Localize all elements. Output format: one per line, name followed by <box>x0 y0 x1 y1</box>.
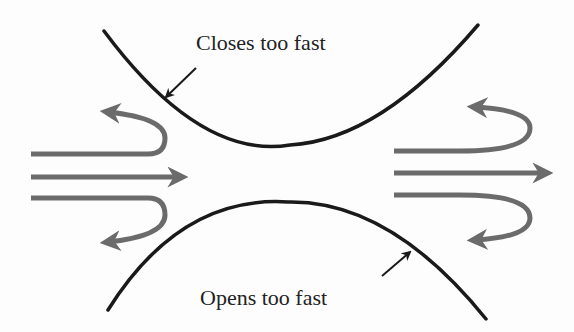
label-closes-too-fast: Closes too fast <box>196 30 326 56</box>
u-turn-arrow-icon-right-bottom <box>394 195 530 240</box>
diagram-canvas: Closes too fast Opens too fast <box>0 0 574 332</box>
u-turn-arrow-icon-right-top <box>394 107 530 151</box>
u-turn-arrow-icon-left-bottom <box>31 198 165 242</box>
label-opens-too-fast: Opens too fast <box>200 285 327 311</box>
right-flow-group <box>394 107 545 240</box>
left-flow-group <box>31 112 180 242</box>
pointer-arrow-icon-bottom <box>382 252 410 276</box>
pointer-arrow-icon-top <box>166 68 196 97</box>
u-turn-arrow-icon-left-top <box>31 112 165 154</box>
